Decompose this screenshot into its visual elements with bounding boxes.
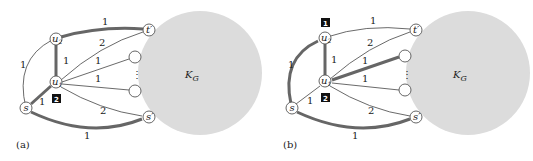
edge-s-u2 <box>289 41 318 104</box>
node-s-label: s <box>290 102 295 113</box>
edge-s-sp <box>297 112 410 128</box>
label-s-u1: 1 <box>39 96 45 107</box>
caption-b: (b) <box>283 139 297 150</box>
edge-u2-t <box>61 28 143 37</box>
dots: ⋮ <box>132 69 142 80</box>
node-sp-label: s′ <box>146 111 154 122</box>
label-u2-u1: 1 <box>63 55 69 66</box>
label-u1-sp: 2 <box>368 105 374 116</box>
label-u2-t: 1 <box>370 15 376 26</box>
node-c2 <box>129 85 141 97</box>
node-c1 <box>399 50 411 62</box>
edge-u2-t <box>327 28 410 37</box>
node-t-label: t′ <box>413 24 420 35</box>
node-sp-label: s′ <box>413 111 421 122</box>
label-u1-sp: 2 <box>100 105 106 116</box>
label-s-u2: 1 <box>20 59 26 70</box>
node-t-label: t′ <box>146 24 153 35</box>
label-u1-c1: 1 <box>95 55 101 66</box>
label-u1-c2: 1 <box>95 73 101 84</box>
label-s-sp: 1 <box>84 130 90 141</box>
label-u1-c1: 1 <box>362 55 368 66</box>
label-s-u1: 1 <box>307 95 313 106</box>
badge-2-text: 2 <box>323 95 328 103</box>
edge-s-sp <box>31 112 142 128</box>
label-u1-c2: 1 <box>362 73 368 84</box>
node-c2 <box>399 84 411 96</box>
label-s-sp: 1 <box>352 130 358 141</box>
kg-cloud <box>406 11 530 135</box>
panel-b: u2 u1 s t′ ⋮ s′ KG 1 1 1 2 1 1 2 1 1 1 2… <box>283 11 530 150</box>
panel-a: u2 u1 s t′ ⋮ s′ KG 1 1 1 2 1 1 2 1 1 2 (… <box>16 11 262 150</box>
node-c1 <box>129 51 141 63</box>
diagram-canvas: u2 u1 s t′ ⋮ s′ KG 1 1 1 2 1 1 2 1 1 2 (… <box>0 0 533 161</box>
dots: ⋮ <box>402 69 412 80</box>
label-s-u2: 1 <box>288 59 294 70</box>
label-u1-t: 2 <box>99 37 105 48</box>
badge-1-text: 1 <box>323 20 328 28</box>
caption-a: (a) <box>16 139 30 150</box>
kg-cloud <box>138 11 262 135</box>
label-u1-t: 2 <box>367 37 373 48</box>
label-u2-t: 1 <box>102 16 108 27</box>
edge-u1-c2 <box>62 84 129 90</box>
node-s-label: s <box>24 102 29 113</box>
label-u2-u1: 1 <box>331 54 337 65</box>
edge-u1-c2 <box>332 83 399 90</box>
badge-2-text: 2 <box>54 96 59 104</box>
